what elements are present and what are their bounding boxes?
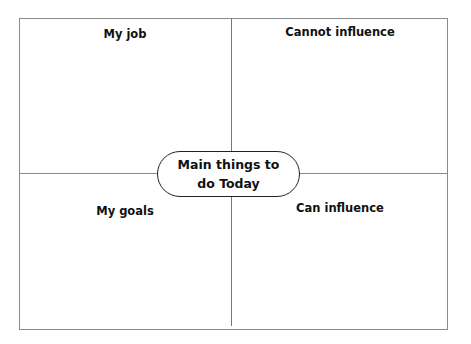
center-node-line-1: Main things to — [178, 155, 280, 174]
quadrant-label-my-job: My job — [19, 27, 231, 41]
quadrant-label-my-goals: My goals — [19, 204, 231, 218]
center-node: Main things to do Today — [157, 151, 300, 197]
quadrant-label-cannot-influence: Cannot influence — [232, 25, 448, 39]
quadrant-label-can-influence: Can influence — [232, 201, 448, 215]
center-node-line-2: do Today — [178, 174, 280, 193]
